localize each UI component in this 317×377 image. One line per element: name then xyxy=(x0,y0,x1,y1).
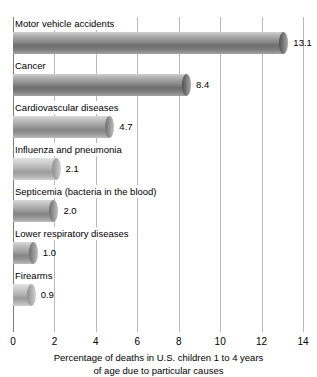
category-label: Cancer xyxy=(15,59,48,72)
bar-value-label: 8.4 xyxy=(196,78,209,91)
category-label: Firearms xyxy=(15,269,54,282)
category-label: Influenza and pneumonia xyxy=(15,143,124,156)
bar-row: Motor vehicle accidents13.1 xyxy=(0,17,317,59)
x-axis-title: Percentage of deaths in U.S. children 1 … xyxy=(0,352,317,377)
x-tick-label: 4 xyxy=(84,336,108,348)
bar-end-cap xyxy=(29,242,38,264)
bar-row: Lower respiratory diseases1.0 xyxy=(0,227,317,269)
bar-value-label: 4.7 xyxy=(119,120,132,133)
x-tick-label: 8 xyxy=(167,336,191,348)
category-label: Septicemia (bacteria in the blood) xyxy=(15,185,159,198)
category-label: Motor vehicle accidents xyxy=(15,17,116,30)
bar-row: Firearms0.9 xyxy=(0,269,317,311)
bar-value-label: 1.0 xyxy=(43,246,56,259)
category-label: Cardiovascular diseases xyxy=(15,101,121,114)
x-tick-label: 0 xyxy=(1,336,25,348)
bar-body xyxy=(13,158,57,180)
bar-value-label: 0.9 xyxy=(41,288,54,301)
bar-value-label: 2.0 xyxy=(63,204,76,217)
bar xyxy=(13,200,54,222)
bar-end-cap xyxy=(27,284,36,306)
bar xyxy=(13,116,110,138)
x-tick-label: 12 xyxy=(250,336,274,348)
bar-value-label: 13.1 xyxy=(293,36,312,49)
bar-row: Cancer8.4 xyxy=(0,59,317,101)
bar-body xyxy=(13,200,54,222)
bar-end-cap xyxy=(105,116,114,138)
x-tick-label: 14 xyxy=(291,336,315,348)
bar-body xyxy=(13,116,110,138)
bar-body xyxy=(13,32,284,54)
bar-row: Septicemia (bacteria in the blood)2.0 xyxy=(0,185,317,227)
bar xyxy=(13,158,57,180)
bar xyxy=(13,242,34,264)
bar-end-cap xyxy=(182,74,191,96)
category-label: Lower respiratory diseases xyxy=(15,227,131,240)
x-tick-label: 2 xyxy=(42,336,66,348)
bar xyxy=(13,74,187,96)
bar-row: Cardiovascular diseases4.7 xyxy=(0,101,317,143)
bar-row: Influenza and pneumonia2.1 xyxy=(0,143,317,185)
bar-end-cap xyxy=(279,32,288,54)
bar-value-label: 2.1 xyxy=(66,162,79,175)
x-axis-title-line-1: Percentage of deaths in U.S. children 1 … xyxy=(0,352,317,365)
x-tick-label: 10 xyxy=(208,336,232,348)
x-tick-label: 6 xyxy=(125,336,149,348)
bar xyxy=(13,32,284,54)
bar-end-cap xyxy=(52,158,61,180)
bar-chart: Percentage of deaths in U.S. children 1 … xyxy=(0,0,317,377)
x-axis-title-line-2: of age due to particular causes xyxy=(0,365,317,377)
bar-end-cap xyxy=(49,200,58,222)
bar xyxy=(13,284,32,306)
bar-body xyxy=(13,74,187,96)
